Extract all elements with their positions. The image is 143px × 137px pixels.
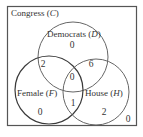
count-democrats-female: 2 [41, 59, 46, 69]
set-label-house: House (H) [85, 88, 123, 98]
count-outside: 0 [126, 114, 131, 124]
venn-diagram: Congress (C) Democrats (D) Female (F) Ho… [0, 0, 143, 137]
count-female-only: 0 [38, 107, 43, 117]
count-female-house: 1 [71, 98, 76, 108]
count-democrats-only: 0 [70, 40, 75, 50]
set-label-democrats: Democrats (D) [47, 29, 101, 39]
count-all-three: 0 [70, 72, 75, 82]
count-democrats-house: 6 [89, 59, 94, 69]
count-house-only: 2 [102, 107, 107, 117]
universe-label: Congress (C) [11, 8, 59, 18]
set-label-female: Female (F) [17, 88, 57, 98]
